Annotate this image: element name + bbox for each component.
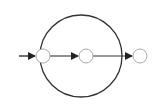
node-1: [36, 49, 50, 63]
node-3: [133, 49, 147, 63]
flow-diagram: [0, 0, 163, 112]
node-2: [79, 49, 93, 63]
